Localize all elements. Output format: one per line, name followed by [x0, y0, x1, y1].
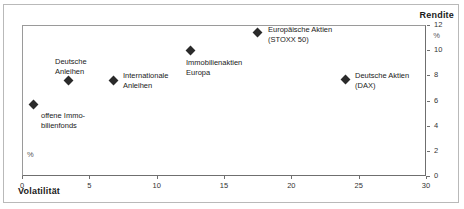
- x-axis-tick-mark: [426, 176, 427, 179]
- x-axis-tick-label: 25: [349, 181, 369, 190]
- x-axis-tick-label: 5: [79, 181, 99, 190]
- y-axis-tick: 4: [427, 126, 461, 127]
- y-axis-tick-mark: [427, 101, 430, 102]
- data-point-label: Deutsche Aktien(DAX): [355, 71, 409, 90]
- y-axis-tick-label: 0: [434, 170, 438, 181]
- x-axis-tick-mark: [22, 176, 23, 179]
- y-axis-tick: 10: [427, 50, 461, 51]
- y-axis-tick-label: 12: [434, 19, 442, 30]
- y-axis-tick: 6: [427, 101, 461, 102]
- y-axis-unit-percent: %: [433, 31, 440, 40]
- y-axis-tick-label: 6: [434, 95, 438, 106]
- data-point-label: ImmobilienaktienEuropa: [186, 58, 242, 77]
- x-axis-tick-label: 15: [214, 181, 234, 190]
- data-point-label-line: Internationale: [123, 71, 168, 81]
- scatter-chart-figure: Rendite Volatilität % % 024681012 051015…: [0, 0, 464, 209]
- data-point-label: offene Immo-bilienfonds: [41, 111, 85, 130]
- y-axis-tick-label: 2: [434, 145, 438, 156]
- data-point-label-line: Deutsche Aktien: [355, 71, 409, 81]
- data-point-label: Europäische Aktien(STOXX 50): [268, 25, 332, 44]
- data-point-label-line: (DAX): [355, 81, 409, 91]
- y-axis-tick-label: 10: [434, 44, 442, 55]
- x-axis-tick-label: 30: [416, 181, 436, 190]
- data-point-label: InternationaleAnleihen: [123, 71, 168, 90]
- x-axis-tick-mark: [359, 176, 360, 179]
- x-axis-unit-percent: %: [27, 150, 34, 159]
- x-axis-tick-label: 10: [147, 181, 167, 190]
- data-point-label-line: bilienfonds: [41, 121, 85, 131]
- data-point-label-line: Anleihen: [55, 67, 87, 77]
- data-point-label: DeutscheAnleihen: [55, 57, 87, 76]
- x-axis-tick-mark: [224, 176, 225, 179]
- data-point-label-line: Europa: [186, 68, 242, 78]
- y-axis-tick: 8: [427, 75, 461, 76]
- data-point-label-line: (STOXX 50): [268, 35, 332, 45]
- x-axis-tick-label: 20: [281, 181, 301, 190]
- data-point-label-line: Deutsche: [55, 57, 87, 67]
- y-axis-tick: 0: [427, 176, 461, 177]
- x-axis-tick-label: 0: [12, 181, 32, 190]
- data-point-label-line: Anleihen: [123, 81, 168, 91]
- x-axis-tick-mark: [89, 176, 90, 179]
- y-axis-tick-mark: [427, 25, 430, 26]
- y-axis-tick-mark: [427, 75, 430, 76]
- data-point-label-line: offene Immo-: [41, 111, 85, 121]
- y-axis-tick-mark: [427, 176, 430, 177]
- y-axis-tick-label: 8: [434, 69, 438, 80]
- y-axis-tick-mark: [427, 126, 430, 127]
- data-point-label-line: Immobilienaktien: [186, 58, 242, 68]
- y-axis-tick-mark: [427, 50, 430, 51]
- data-point-label-line: Europäische Aktien: [268, 25, 332, 35]
- y-axis-tick: 2: [427, 151, 461, 152]
- y-axis-tick-label: 4: [434, 120, 438, 131]
- y-axis-tick: 12: [427, 25, 461, 26]
- x-axis-tick-mark: [157, 176, 158, 179]
- y-axis-tick-mark: [427, 151, 430, 152]
- x-axis-tick-mark: [291, 176, 292, 179]
- plot-area-frame: [22, 25, 426, 176]
